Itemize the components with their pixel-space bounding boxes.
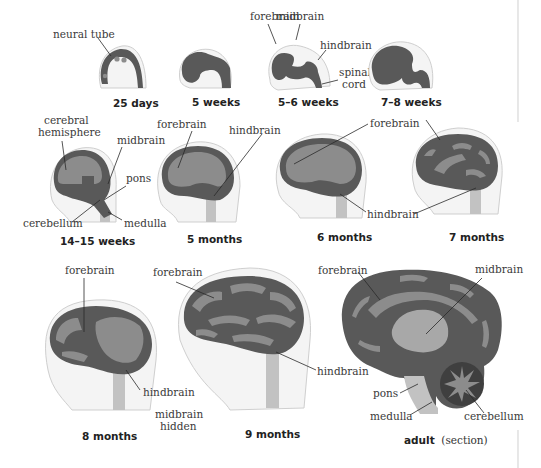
- stage-14-15-weeks: cerebral hemisphere midbrain pons cerebe…: [23, 114, 167, 247]
- stage-8-months: forebrain hindbrain midbrain hidden 8 mo…: [46, 264, 204, 442]
- leader-line: [98, 38, 111, 56]
- caption-8-months: 8 months: [82, 430, 137, 442]
- label-midbrain: midbrain: [475, 263, 523, 275]
- stage-25-days: neural tube 25 days: [53, 28, 159, 109]
- label-hindbrain: hindbrain: [229, 124, 281, 136]
- caption-6-months: 6 months: [317, 231, 372, 243]
- label-spinal: spinal: [339, 66, 371, 78]
- neural-tube-vesicle: [114, 56, 119, 61]
- leader-midbrain: [296, 24, 300, 40]
- label-neural-tube: neural tube: [53, 28, 115, 40]
- stage-5-6-weeks: forebrain midbrain hindbrain spinal cord…: [250, 10, 372, 108]
- neural-tube-vesicle: [103, 74, 107, 78]
- leader-forebrain: [268, 24, 276, 44]
- caption-9-months: 9 months: [245, 428, 300, 440]
- label-pons: pons: [373, 387, 398, 399]
- caption-7-8-weeks: 7–8 weeks: [381, 96, 442, 108]
- caption-14-15-weeks: 14–15 weeks: [60, 235, 135, 247]
- label-hindbrain: hindbrain: [143, 386, 195, 398]
- label-forebrain: forebrain: [318, 264, 368, 276]
- label-midbrain: midbrain: [155, 408, 203, 420]
- spinal-cord: [113, 372, 125, 410]
- label-pons: pons: [126, 172, 151, 184]
- caption-5-6-weeks: 5–6 weeks: [278, 96, 339, 108]
- label-cerebral: cerebral: [44, 114, 89, 126]
- spinal-cord: [266, 350, 279, 408]
- label-forebrain: forebrain: [370, 117, 420, 129]
- caption-adult-suffix: (section): [441, 434, 487, 446]
- label-midbrain: midbrain: [276, 10, 324, 22]
- stage-7-months: 7 months: [412, 120, 504, 243]
- label-forebrain: forebrain: [153, 266, 203, 278]
- label-medulla: medulla: [124, 217, 167, 229]
- stage-6-months: forebrain hindbrain 6 months: [276, 117, 420, 243]
- label-hindbrain: hindbrain: [317, 365, 369, 377]
- caption-5-months: 5 months: [187, 233, 242, 245]
- label-forebrain: forebrain: [157, 118, 207, 130]
- label-cerebellum: cerebellum: [464, 410, 524, 422]
- label-forebrain: forebrain: [65, 264, 115, 276]
- label-hidden: hidden: [160, 420, 197, 432]
- label-cerebellum: cerebellum: [23, 217, 83, 229]
- neural-tube-vesicle: [121, 57, 126, 62]
- stage-adult-section: forebrain midbrain pons medulla cerebell…: [318, 263, 524, 446]
- label-midbrain: midbrain: [117, 134, 165, 146]
- label-medulla: medulla: [370, 410, 413, 422]
- label-cord: cord: [342, 78, 366, 90]
- label-hindbrain: hindbrain: [320, 39, 372, 51]
- brain-development-diagram: neural tube 25 days 5 weeks forebrain mi…: [0, 0, 541, 468]
- caption-adult: adult (section): [404, 434, 488, 446]
- stage-7-8-weeks: 7–8 weeks: [369, 42, 442, 108]
- caption-7-months: 7 months: [449, 231, 504, 243]
- label-hemisphere: hemisphere: [38, 126, 101, 138]
- caption-25-days: 25 days: [113, 97, 159, 109]
- label-hindbrain: hindbrain: [367, 208, 419, 220]
- stage-5-months: forebrain hindbrain 5 months: [157, 118, 281, 245]
- caption-adult-main: adult: [404, 434, 435, 446]
- stage-5-weeks: 5 weeks: [179, 49, 240, 108]
- caption-5-weeks: 5 weeks: [192, 96, 240, 108]
